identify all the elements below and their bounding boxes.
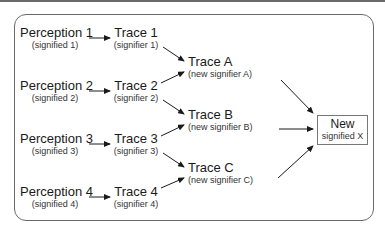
trace-sub: (signifier 1) [111, 40, 161, 51]
perception-sub: (signified 4) [20, 199, 90, 210]
perception-label: Perception 2 [20, 78, 90, 93]
arrow-t3-tc [163, 153, 184, 167]
combined-trace-sub: (new signifier C) [188, 175, 253, 186]
trace-node-4: Trace 4 (signifier 4) [111, 184, 161, 210]
arrow-ta-x [281, 80, 313, 113]
perception-node-1: Perception 1 (signified 1) [20, 25, 90, 51]
combined-trace-label: Trace A [188, 54, 252, 69]
arrow-tc-x [278, 146, 313, 178]
trace-node-3: Trace 3 (signifier 3) [111, 131, 161, 157]
combined-trace-sub: (new signifier B) [188, 122, 253, 133]
trace-label: Trace 3 [111, 131, 161, 146]
trace-node-a: Trace A (new signifier A) [188, 54, 252, 80]
trace-node-b: Trace B (new signifier B) [188, 107, 253, 133]
perception-sub: (signified 1) [20, 40, 90, 51]
trace-label: Trace 2 [111, 78, 161, 93]
perception-node-4: Perception 4 (signified 4) [20, 184, 90, 210]
perception-label: Perception 1 [20, 25, 90, 40]
arrow-t2-ta [161, 72, 184, 83]
trace-label: Trace 4 [111, 184, 161, 199]
combined-trace-label: Trace C [188, 160, 253, 175]
perception-node-3: Perception 3 (signified 3) [20, 131, 90, 157]
new-signified-box: New signified X [317, 115, 368, 145]
trace-node-2: Trace 2 (signifier 2) [111, 78, 161, 104]
arrow-t3-tb [161, 125, 184, 136]
combined-trace-label: Trace B [188, 107, 253, 122]
perception-node-2: Perception 2 (signified 2) [20, 78, 90, 104]
arrow-t4-tc [161, 178, 184, 188]
trace-sub: (signifier 4) [111, 199, 161, 210]
trace-label: Trace 1 [111, 25, 161, 40]
result-label: New [318, 117, 367, 131]
arrow-t2-tb [163, 100, 184, 114]
arrow-t1-ta [163, 47, 184, 61]
result-sub: signified X [318, 131, 367, 142]
trace-sub: (signifier 2) [111, 93, 161, 104]
trace-node-1: Trace 1 (signifier 1) [111, 25, 161, 51]
trace-node-c: Trace C (new signifier C) [188, 160, 253, 186]
trace-sub: (signifier 3) [111, 146, 161, 157]
combined-trace-sub: (new signifier A) [188, 69, 252, 80]
perception-sub: (signified 3) [20, 146, 90, 157]
perception-label: Perception 4 [20, 184, 90, 199]
perception-label: Perception 3 [20, 131, 90, 146]
perception-sub: (signified 2) [20, 93, 90, 104]
